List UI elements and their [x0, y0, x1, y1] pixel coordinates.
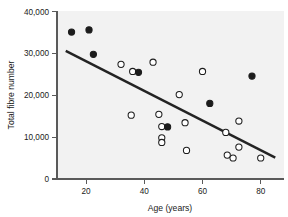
data-point: [164, 124, 170, 130]
plot-area-background: [57, 11, 284, 179]
chart-canvas: 40,000 30,000 20,000 10,000 0 20 40 60 8…: [0, 0, 288, 217]
data-point: [118, 61, 124, 67]
x-axis-tick-labels: 20 40 60 80: [82, 187, 266, 196]
data-point: [176, 91, 182, 97]
data-point: [68, 29, 74, 35]
data-point: [183, 147, 189, 153]
data-point: [135, 69, 141, 75]
y-tick-label-0: 0: [44, 175, 49, 184]
y-axis-tick-labels: 40,000 30,000 20,000 10,000 0: [24, 8, 49, 185]
data-point: [86, 27, 92, 33]
data-point: [182, 120, 188, 126]
x-axis-ticks: [86, 179, 261, 184]
x-tick-label-60: 60: [198, 187, 208, 196]
x-tick-label-40: 40: [140, 187, 150, 196]
data-point: [207, 100, 213, 106]
y-tick-label-30000: 30,000: [24, 49, 49, 58]
y-axis-title: Total fibre number: [6, 60, 16, 129]
data-point: [199, 68, 205, 74]
data-point: [230, 155, 236, 161]
data-point: [236, 118, 242, 124]
x-tick-label-80: 80: [256, 187, 266, 196]
x-tick-label-20: 20: [82, 187, 92, 196]
data-point: [224, 152, 230, 158]
data-point: [159, 139, 165, 145]
data-point: [130, 68, 136, 74]
scatter-plot-figure: 40,000 30,000 20,000 10,000 0 20 40 60 8…: [0, 0, 288, 217]
y-axis-ticks: [52, 12, 57, 180]
data-point: [249, 73, 255, 79]
data-point: [156, 111, 162, 117]
y-tick-label-20000: 20,000: [24, 91, 49, 100]
data-point: [236, 144, 242, 150]
x-axis-title: Age (years): [148, 203, 193, 213]
y-tick-label-10000: 10,000: [24, 133, 49, 142]
data-point: [150, 59, 156, 65]
y-tick-label-40000: 40,000: [24, 8, 49, 17]
data-point: [258, 155, 264, 161]
data-point: [128, 112, 134, 118]
data-point: [159, 123, 165, 129]
data-point: [90, 51, 96, 57]
data-point: [223, 129, 229, 135]
